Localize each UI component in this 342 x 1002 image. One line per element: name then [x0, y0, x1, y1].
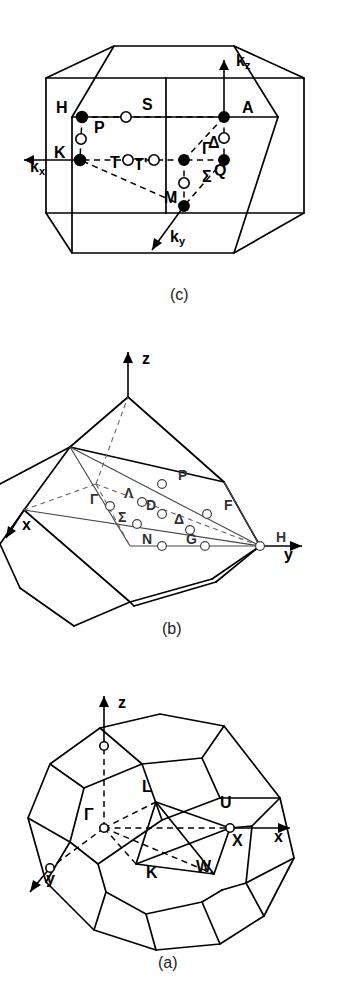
point-F — [203, 510, 212, 519]
axis-x-label: x — [274, 828, 283, 845]
label-Gamma: Γ — [202, 140, 212, 157]
panel-b-bcc-brillouin-zone: y z x H F G Δ P D N Λ Σ Γ (b) — [0, 334, 342, 668]
point-Delta — [219, 133, 229, 143]
label-W: W — [196, 858, 212, 875]
figure-canvas: kz kx ky A Δ Γ Σ M Q T' S T H P — [0, 0, 342, 1002]
rhombic-dodecahedron-outline — [0, 397, 260, 626]
symmetry-point-labels: H F G Δ P D N Λ Σ Γ — [90, 467, 286, 547]
point-T — [123, 155, 133, 165]
label-Gamma: Γ — [90, 491, 99, 507]
label-G: G — [186, 531, 197, 547]
point-K — [75, 155, 86, 166]
hexagonal-prism-outline — [46, 46, 304, 253]
point-M — [179, 201, 189, 211]
label-Q: Q — [214, 162, 226, 179]
axis-kx-label: kx — [30, 158, 46, 177]
label-X: X — [232, 832, 243, 849]
point-H — [256, 542, 265, 551]
axis-kz-label: kz — [236, 52, 251, 71]
point-Sigma — [179, 178, 189, 188]
label-P: P — [94, 119, 105, 136]
panel-a-caption: (a) — [158, 954, 178, 971]
point-Gamma — [106, 502, 115, 511]
label-Delta: Δ — [174, 511, 184, 527]
point-D — [158, 510, 167, 519]
label-F: F — [224, 497, 233, 513]
truncated-octahedron-outline — [28, 714, 294, 950]
symmetry-mesh — [24, 397, 260, 546]
label-D: D — [146, 497, 156, 513]
label-N: N — [142, 531, 152, 547]
label-L: L — [142, 778, 152, 795]
panel-b-caption: (b) — [162, 620, 182, 637]
axis-ky-label: ky — [170, 228, 186, 247]
label-Gamma: Γ — [84, 806, 94, 823]
axis-y-label: y — [284, 546, 293, 563]
axis-z-label: z — [142, 350, 150, 367]
point-Tprime — [149, 155, 159, 165]
label-Tprime: T' — [134, 156, 148, 173]
panel-c-hexagonal-brillouin-zone: kz kx ky A Δ Γ Σ M Q T' S T H P — [0, 0, 342, 334]
axis-z — [123, 352, 133, 397]
panel-a-fcc-brillouin-zone: x z y X U W K L Γ (a) — [0, 668, 342, 1002]
point-A — [219, 112, 229, 122]
point-N — [158, 542, 167, 551]
label-A: A — [242, 99, 254, 116]
point-G — [201, 542, 210, 551]
point-Gamma — [100, 824, 108, 832]
label-P: P — [178, 467, 187, 483]
point-P — [158, 480, 167, 489]
point-L — [179, 155, 189, 165]
point-X — [226, 824, 234, 832]
label-K: K — [146, 864, 158, 881]
point-P — [76, 134, 86, 144]
axis-x-label: x — [22, 516, 31, 533]
axis-kz — [219, 60, 229, 117]
label-Lambda: Λ — [124, 485, 134, 501]
point-S — [121, 112, 131, 122]
label-H: H — [276, 529, 286, 545]
label-K: K — [54, 144, 66, 161]
label-U: U — [220, 794, 232, 811]
label-Sigma: Σ — [118, 509, 126, 525]
label-Sigma: Σ — [202, 168, 212, 185]
point-y-intercept — [46, 864, 54, 872]
point-z-intercept — [100, 742, 108, 750]
label-S: S — [142, 96, 153, 113]
label-T: T — [110, 154, 120, 171]
point-Sigma — [133, 520, 142, 529]
axis-z — [99, 696, 109, 746]
label-H: H — [56, 99, 68, 116]
point-H — [77, 112, 88, 123]
axis-z-label: z — [118, 694, 126, 711]
panel-c-caption: (c) — [170, 286, 189, 303]
label-M: M — [164, 189, 177, 206]
